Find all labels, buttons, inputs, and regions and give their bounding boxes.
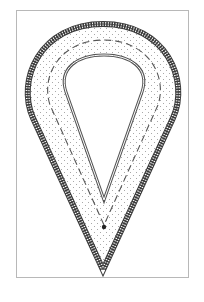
teardrop-diagram (0, 0, 204, 302)
center-dot (102, 225, 106, 229)
